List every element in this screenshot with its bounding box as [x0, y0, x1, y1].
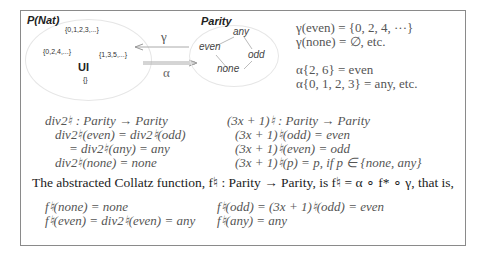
set-empty: {}	[83, 76, 88, 83]
gamma-arrow-icon	[133, 43, 191, 51]
ui-label: UI	[78, 61, 89, 73]
result-any: f♮(any) = any	[217, 214, 287, 228]
threex-odd: (3x + 1)♮(odd) = even	[235, 128, 350, 142]
alpha-def-2: α{0, 1, 2, 3} = any, etc.	[296, 77, 417, 91]
result-odd: f♮(odd) = (3x + 1)♮(odd) = even	[217, 200, 384, 214]
node-any: any	[233, 26, 249, 37]
threex-even: (3x + 1)♮(even) = odd	[235, 142, 350, 156]
gamma-def-1: γ(even) = {0, 2, 4, ···}	[296, 21, 413, 35]
gamma-def-2: γ(none) = ∅, etc.	[296, 35, 385, 49]
node-even: even	[199, 41, 221, 52]
node-none: none	[217, 63, 239, 74]
result-none: f♮(none) = none	[45, 200, 128, 214]
result-even: f♮(even) = div2♮(even) = any	[45, 214, 195, 228]
summary-sentence: The abstracted Collatz function, f♮ : Pa…	[32, 174, 454, 191]
alpha-symbol: α	[163, 65, 170, 81]
set-naturals: {0,1,2,3,...}	[65, 26, 99, 33]
alpha-def-1: α{2, 6} = even	[296, 63, 373, 77]
threex-signature: (3x + 1)♮ : Parity → Parity	[227, 114, 370, 128]
div2-signature: div2♮ : Parity → Parity	[45, 114, 168, 128]
node-odd: odd	[248, 49, 265, 60]
threex-p: (3x + 1)♮(p) = p, if p ∈ {none, any}	[235, 156, 422, 170]
set-odds: {1,3,5,...}	[99, 51, 127, 58]
figure-frame: P(Nat) {0,1,2,3,...} {0,2,4,...} {1,3,5,…	[20, 10, 466, 246]
set-evens: {0,2,4,...}	[43, 48, 71, 55]
parity-title: Parity	[201, 15, 232, 27]
div2-even-odd: div2♮(even) = div2♮(odd)	[55, 128, 186, 142]
div2-any: = div2♮(any) = any	[69, 142, 170, 156]
pnat-title: P(Nat)	[27, 14, 59, 26]
div2-none: div2♮(none) = none	[55, 156, 157, 170]
